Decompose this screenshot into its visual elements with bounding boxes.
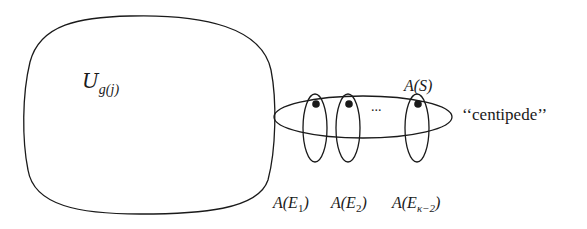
leg-label-e2: A(E2) <box>331 195 367 211</box>
set-s-label-arg: S <box>419 77 427 94</box>
leg-label-main: A <box>273 194 283 211</box>
leg-label-e1: A(E1) <box>273 195 309 211</box>
leg-label-main: A <box>331 194 341 211</box>
vertex-dot-e1 <box>312 100 320 108</box>
centipede-label: ‘‘centipede’’ <box>462 106 547 123</box>
set-s-label-main: A <box>404 77 414 94</box>
vertex-dot-e2 <box>345 100 353 108</box>
ellipsis-text: ... <box>371 99 382 114</box>
centipede-diagram: Ug(j) A(S) ‘‘centipede’’ ... A(E1) A(E2)… <box>0 0 587 229</box>
leg-label-subscript: 2 <box>356 202 362 214</box>
leg-label-base: E <box>346 194 356 211</box>
universe-region <box>24 16 275 214</box>
leg-label-subscript: 1 <box>298 202 304 214</box>
centipede-label-text: ‘‘centipede’’ <box>462 105 547 124</box>
leg-label-base: E <box>288 194 298 211</box>
leg-label-subscript: κ−2 <box>417 202 435 214</box>
universe-label: Ug(j) <box>82 70 119 92</box>
ellipsis: ... <box>371 100 382 114</box>
leg-label-main: A <box>392 194 402 211</box>
vertex-dot-ek2 <box>414 100 422 108</box>
leg-label-ek2: A(Eκ−2) <box>392 195 440 211</box>
leg-label-base: E <box>407 194 417 211</box>
set-s-label: A(S) <box>404 78 432 94</box>
universe-label-subscript: g(j) <box>99 82 119 97</box>
universe-label-main: U <box>82 69 99 93</box>
